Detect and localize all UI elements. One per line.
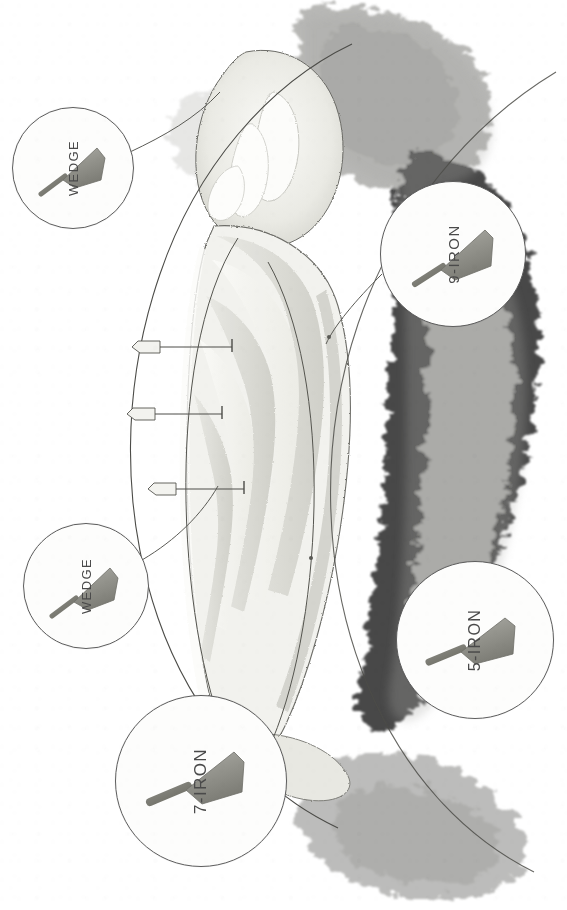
callout-label: 9-IRON bbox=[445, 224, 462, 283]
callout-label: 7-IRON bbox=[191, 748, 211, 814]
drawing-stage: WEDGE 9-IRON WEDGE bbox=[0, 0, 567, 910]
callout-label: WEDGE bbox=[66, 140, 81, 196]
callout-label: WEDGE bbox=[79, 558, 94, 614]
illustration-page: WEDGE 9-IRON WEDGE bbox=[0, 0, 567, 910]
callout-nine-iron[interactable]: 9-IRON bbox=[380, 181, 526, 327]
callout-five-iron[interactable]: 5-IRON bbox=[396, 561, 554, 719]
callout-seven-iron[interactable]: 7-IRON bbox=[115, 695, 287, 867]
fairway bbox=[180, 226, 351, 761]
callout-wedge-middle[interactable]: WEDGE bbox=[23, 523, 149, 649]
callout-label: 5-IRON bbox=[466, 609, 484, 672]
pin-dot bbox=[309, 556, 313, 560]
callout-wedge-top[interactable]: WEDGE bbox=[12, 107, 134, 229]
